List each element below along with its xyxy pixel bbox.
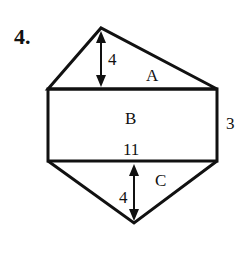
width-label-b: 11 xyxy=(123,140,139,159)
height-arrow-c xyxy=(129,164,139,221)
region-label-c: C xyxy=(155,171,166,190)
region-label-b: B xyxy=(125,109,136,128)
height-label-c: 4 xyxy=(119,188,128,207)
height-arrow-a xyxy=(96,31,106,87)
region-label-a: A xyxy=(146,66,159,85)
triangle-a xyxy=(48,28,217,89)
height-label-b: 3 xyxy=(226,114,235,133)
height-label-a: 4 xyxy=(108,50,117,69)
composite-figure: 4 A B 3 11 C 4 xyxy=(0,0,244,273)
